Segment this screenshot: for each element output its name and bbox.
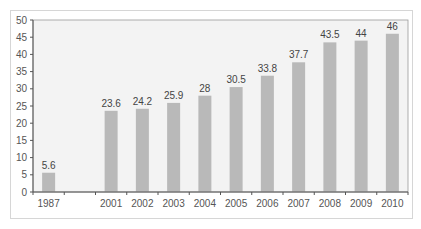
y-tick-label: 25 (16, 101, 28, 112)
x-tick-label-2006: 2006 (256, 198, 279, 209)
data-label-2005: 30.5 (226, 74, 246, 85)
x-tick-label-2002: 2002 (131, 198, 154, 209)
x-tick-label-2008: 2008 (319, 198, 342, 209)
y-tick-label: 20 (16, 118, 28, 129)
bar-2006 (261, 76, 274, 192)
data-label-2001: 23.6 (101, 98, 121, 109)
bar-2002 (136, 109, 149, 192)
bar-2009 (355, 41, 368, 192)
data-label-2010: 46 (387, 21, 399, 32)
y-axis: 05101520253035404550 (16, 15, 33, 198)
data-label-2002: 24.2 (133, 96, 153, 107)
data-label-2006: 33.8 (258, 63, 278, 74)
y-tick-label: 35 (16, 66, 28, 77)
data-label-2003: 25.9 (164, 90, 184, 101)
data-label-2008: 43.5 (320, 29, 340, 40)
bar-2007 (292, 62, 305, 192)
bar-2003 (167, 103, 180, 192)
x-tick-label-2009: 2009 (350, 198, 373, 209)
data-label-2007: 37.7 (289, 49, 309, 60)
y-tick-label: 5 (21, 169, 27, 180)
x-tick-label-2003: 2003 (163, 198, 186, 209)
x-tick-label-2007: 2007 (288, 198, 311, 209)
x-axis: 1987200120022003200420052006200720082009… (33, 192, 408, 209)
bar-2005 (230, 87, 243, 192)
plot-background (33, 20, 408, 192)
bar-2010 (386, 34, 399, 192)
x-tick-label-2004: 2004 (194, 198, 217, 209)
data-label-1987: 5.6 (42, 160, 56, 171)
y-tick-label: 10 (16, 152, 28, 163)
bar-2008 (323, 42, 336, 192)
y-tick-label: 15 (16, 135, 28, 146)
y-tick-label: 30 (16, 83, 28, 94)
y-tick-label: 50 (16, 15, 28, 26)
data-label-2009: 44 (356, 28, 368, 39)
y-tick-label: 45 (16, 32, 28, 43)
bar-chart: 5.623.624.225.92830.533.837.743.54446 05… (0, 0, 421, 229)
x-tick-label-1987: 1987 (38, 198, 61, 209)
y-tick-label: 40 (16, 49, 28, 60)
bar-2004 (198, 96, 211, 192)
x-tick-label-2001: 2001 (100, 198, 123, 209)
x-tick-label-2005: 2005 (225, 198, 248, 209)
y-tick-label: 0 (21, 187, 27, 198)
data-label-2004: 28 (199, 83, 211, 94)
x-tick-label-2010: 2010 (381, 198, 404, 209)
bar-2001 (105, 111, 118, 192)
bar-1987 (42, 173, 55, 192)
